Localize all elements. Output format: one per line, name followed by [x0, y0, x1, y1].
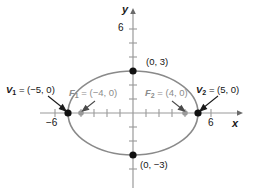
covertex-point-bottom: [129, 151, 136, 158]
vertex-v2-equation: = (5, 0): [206, 84, 239, 95]
focus-f2-subscript: 2: [151, 92, 155, 99]
focus-f1-subscript: 1: [75, 92, 79, 99]
covertex-point-top: [129, 67, 136, 74]
y-axis-arrowhead: [130, 8, 136, 14]
ellipse-figure: y x 6 −6 6 (0, 3) (0, −3) V1 = (−5, 0) V…: [0, 0, 257, 195]
focus-f1-label: F1 = (−4, 0): [69, 88, 117, 98]
vertex-v1-label: V1 = (−5, 0): [6, 85, 55, 95]
focus-f1-equation: = (−4, 0): [79, 87, 118, 98]
vertex-v2-subscript: 2: [202, 89, 206, 96]
x-axis-arrowhead: [237, 110, 243, 116]
x-axis-label: x: [232, 118, 238, 129]
x-tick-label-neg6: −6: [46, 118, 57, 128]
covertex-top-label: (0, 3): [146, 57, 168, 67]
y-tick-label-6: 6: [118, 23, 124, 33]
focus-f2-label: F2 = (4, 0): [145, 88, 188, 98]
arrow-v2-line: [203, 96, 218, 108]
arrow-v1-line: [48, 96, 63, 108]
ellipse-plot-svg: [0, 0, 257, 195]
y-axis-label: y: [122, 4, 128, 15]
focus-f2-equation: = (4, 0): [155, 87, 188, 98]
x-tick-label-6: 6: [208, 118, 214, 128]
focus-f1-symbol: F: [69, 87, 75, 98]
vertex-v1-equation: = (−5, 0): [16, 84, 55, 95]
focus-f2-symbol: F: [145, 87, 151, 98]
vertex-v1-subscript: 1: [12, 89, 16, 96]
covertex-bottom-label: (0, −3): [140, 160, 168, 170]
vertex-v2-label: V2 = (5, 0): [196, 85, 239, 95]
